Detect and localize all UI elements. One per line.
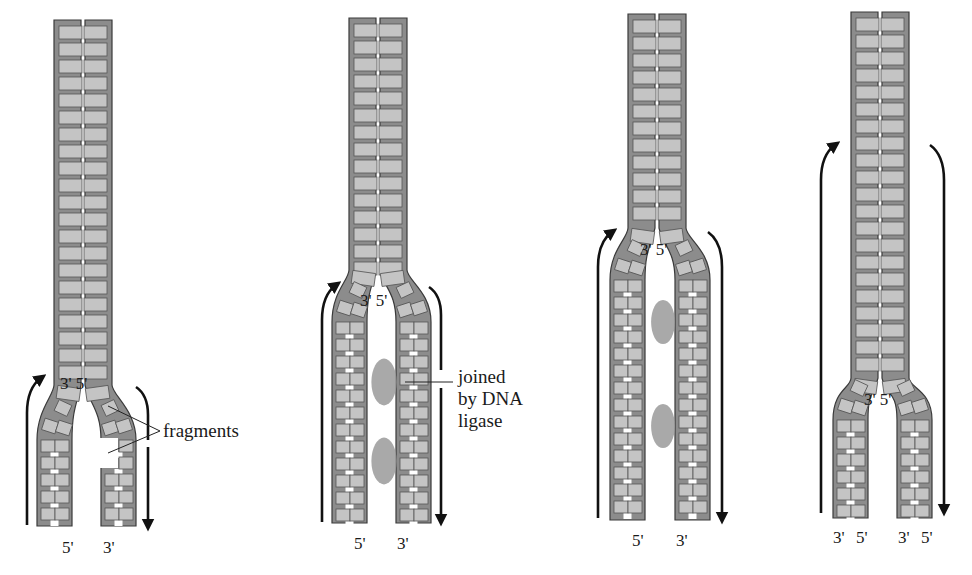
fork-end-label: 3' 5' bbox=[60, 374, 87, 394]
strand-end-label: 5' bbox=[62, 538, 74, 558]
diagram-canvas bbox=[0, 0, 972, 575]
strand-end-label: 5' bbox=[632, 531, 644, 551]
strand-end-label: 5' bbox=[921, 528, 933, 548]
ligase-blob bbox=[371, 359, 396, 406]
strand-end-label: 3' bbox=[397, 534, 409, 554]
ligase-blob bbox=[651, 404, 675, 448]
strand-end-label: 3' bbox=[103, 538, 115, 558]
strand-end-label: 3' bbox=[833, 528, 845, 548]
strand-end-label: 5' bbox=[354, 534, 366, 554]
callout-line: fragments bbox=[163, 420, 239, 442]
fork-end-label: 3' 5' bbox=[360, 291, 387, 311]
dna-replication-diagram: 3' 5'5'3'fragments3' 5'5'3'joinedby DNAl… bbox=[0, 0, 972, 575]
panel-2 bbox=[322, 18, 453, 527]
callout-line: ligase bbox=[458, 410, 523, 432]
strand-end-label: 5' bbox=[856, 528, 868, 548]
ligase-blob bbox=[371, 438, 396, 485]
callout-label: joinedby DNAligase bbox=[458, 366, 523, 432]
callout-line: by DNA bbox=[458, 388, 523, 410]
ligase-blob bbox=[651, 300, 675, 344]
panel-4 bbox=[821, 12, 944, 523]
strand-end-label: 3' bbox=[898, 528, 910, 548]
fork-end-label: 3' 5' bbox=[864, 390, 891, 410]
panel-3 bbox=[598, 14, 722, 520]
callout-label: fragments bbox=[163, 420, 239, 442]
strand-end-label: 3' bbox=[676, 531, 688, 551]
arrow-segment bbox=[136, 387, 148, 440]
callout-line: joined bbox=[458, 366, 523, 388]
fork-end-label: 3' 5' bbox=[640, 240, 667, 260]
panel-1 bbox=[27, 20, 160, 526]
